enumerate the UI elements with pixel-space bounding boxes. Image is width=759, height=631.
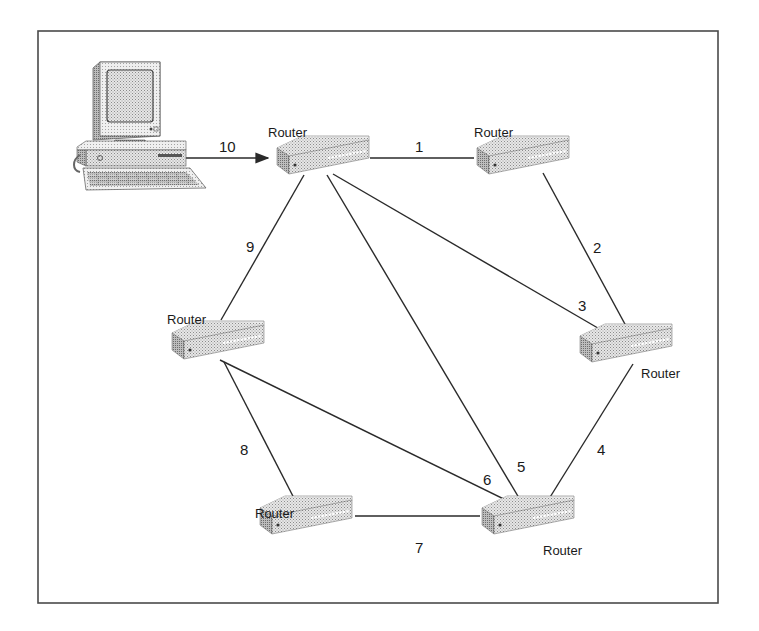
router-label: Router [167, 312, 207, 327]
router-label: Router [474, 125, 514, 140]
link-label-9: 9 [246, 238, 254, 255]
link-label-3: 3 [578, 297, 586, 314]
link-label-8: 8 [240, 441, 248, 458]
router-label: Router [255, 506, 295, 521]
link-label-4: 4 [597, 441, 605, 458]
link-label-2: 2 [593, 239, 601, 256]
link-label-7: 7 [415, 539, 423, 556]
link-label-6: 6 [483, 471, 491, 488]
router-label: Router [268, 125, 308, 140]
network-diagram: 10 1 2 3 4 5 6 7 8 9 Rout [0, 0, 759, 631]
link-label-1: 1 [415, 138, 423, 155]
router-label: Router [641, 366, 681, 381]
router-label: Router [543, 543, 583, 558]
link-label-5: 5 [517, 458, 525, 475]
link-label-10: 10 [219, 138, 236, 155]
